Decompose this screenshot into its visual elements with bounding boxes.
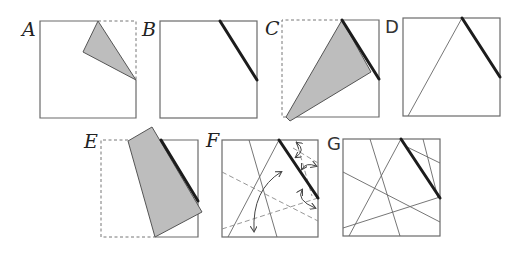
panel-b: B (141, 18, 257, 118)
crease-line (220, 21, 257, 80)
folded-flap (286, 20, 371, 121)
panel-a: A (20, 18, 136, 118)
origami-fold-diagram: A B C D E F (0, 0, 522, 254)
panel-label-c: C (265, 17, 280, 39)
thin-crease (349, 139, 401, 236)
panel-label-b: B (141, 18, 156, 40)
panel-d: D (385, 16, 500, 116)
folded-flap (128, 127, 202, 237)
folded-flap (83, 21, 136, 80)
square-outline (160, 21, 257, 118)
panel-label-a: A (20, 18, 36, 40)
panel-e: E (83, 127, 202, 237)
panel-g: G (327, 133, 440, 236)
thin-crease (343, 172, 440, 222)
panel-label-g: G (327, 133, 341, 154)
crease-line (401, 139, 440, 198)
square-outline (343, 139, 440, 236)
thin-crease (343, 197, 440, 228)
crease-line (462, 18, 500, 77)
fold-arrow-icon (302, 165, 316, 169)
panel-label-e: E (83, 130, 98, 152)
thin-crease (408, 18, 462, 116)
dashed-crease (293, 148, 318, 163)
panel-f: F (205, 129, 318, 237)
panel-c: C (265, 17, 379, 121)
panel-label-f: F (205, 129, 220, 151)
panel-label-d: D (385, 16, 399, 37)
square-outline (403, 18, 500, 116)
